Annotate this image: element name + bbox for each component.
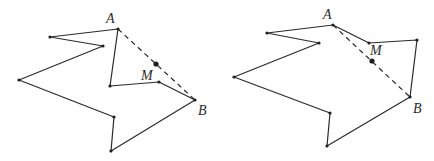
vertex-point (265, 31, 268, 34)
label-m-right: M (369, 43, 383, 58)
vertex-point (408, 95, 411, 98)
vertex-point (157, 80, 160, 83)
vertex-point (325, 144, 328, 147)
label-b-left: B (198, 103, 207, 118)
vertex-point (232, 75, 235, 78)
vertex-point (109, 149, 112, 152)
label-m-left: M (140, 68, 154, 83)
vertex-point (193, 98, 196, 101)
vertex-point (317, 41, 320, 44)
label-a-left: A (105, 11, 115, 26)
vertex-point (328, 111, 331, 114)
figure-right: A B M (232, 7, 422, 148)
polygon-right (234, 25, 417, 146)
vertex-point (112, 115, 115, 118)
midpoint-m-left (153, 61, 158, 66)
figure-left: A B M (17, 11, 207, 153)
vertex-point (415, 38, 418, 41)
midpoint-m-right (369, 58, 374, 63)
polygon-diagram-canvas: A B M A B M (0, 0, 434, 161)
vertex-point (108, 84, 111, 87)
vertex-point (48, 35, 51, 38)
vertex-point (17, 78, 20, 81)
vertex-point (101, 44, 104, 47)
polygon-left (19, 29, 195, 151)
label-a-right: A (322, 7, 332, 22)
vertex-point (116, 27, 119, 30)
vertex-point (331, 23, 334, 26)
label-b-right: B (413, 101, 422, 116)
